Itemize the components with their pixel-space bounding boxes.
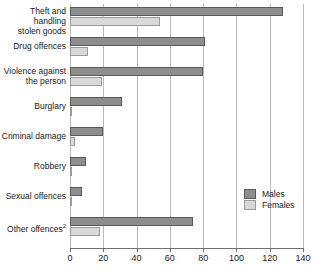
category-label: Violence againstthe person	[0, 66, 66, 86]
bar-females	[70, 17, 160, 26]
bar-females	[70, 197, 72, 206]
x-tick	[270, 248, 271, 252]
category-label: Criminal damage	[0, 131, 66, 141]
bar-females	[70, 47, 88, 56]
category-label: Drug offences	[0, 41, 66, 51]
bar-males	[70, 67, 203, 76]
x-tick	[203, 248, 204, 252]
bar-males	[70, 7, 283, 16]
gridline	[236, 4, 237, 248]
x-tick	[170, 248, 171, 252]
category-label: Other offences2	[0, 221, 66, 234]
category-label: Sexual offences	[0, 191, 66, 201]
legend-label-males: Males	[262, 189, 285, 199]
x-tick-label: 80	[198, 253, 208, 264]
x-tick-label: 100	[229, 253, 244, 264]
bar-males	[70, 37, 205, 46]
category-label: Robbery	[0, 161, 66, 171]
gridline	[270, 4, 271, 248]
bar-males	[70, 187, 82, 196]
gridline	[303, 4, 304, 248]
category-label: Theft and handlingstolen goods	[0, 6, 66, 36]
legend-label-females: Females	[262, 200, 295, 210]
x-tick	[303, 248, 304, 252]
x-tick-label: 120	[262, 253, 277, 264]
bar-females	[70, 227, 100, 236]
x-tick-label: 140	[295, 253, 310, 264]
bar-males	[70, 217, 193, 226]
bar-females	[70, 77, 102, 86]
bar-chart: 020406080100120140 Theft and handlingsto…	[0, 0, 314, 269]
bar-males	[70, 127, 103, 136]
x-tick-label: 60	[165, 253, 175, 264]
bar-males	[70, 157, 86, 166]
plot-area	[70, 4, 303, 248]
x-tick	[137, 248, 138, 252]
legend-swatch-males-icon	[244, 189, 256, 199]
x-tick	[70, 248, 71, 252]
x-tick	[103, 248, 104, 252]
x-tick-label: 40	[132, 253, 142, 264]
x-tick-label: 0	[67, 253, 72, 264]
legend-swatch-females-icon	[244, 200, 256, 210]
bar-females	[70, 167, 72, 176]
x-tick-label: 20	[98, 253, 108, 264]
bar-males	[70, 97, 122, 106]
bar-females	[70, 107, 72, 116]
bar-females	[70, 137, 75, 146]
x-tick	[236, 248, 237, 252]
category-label: Burglary	[0, 101, 66, 111]
